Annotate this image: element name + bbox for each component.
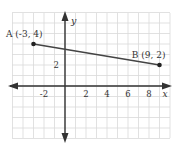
- data-point: [157, 63, 162, 68]
- coordinate-plane: -224682xy A (-3, 4)B (9, 2): [0, 0, 179, 147]
- data-point: [31, 42, 36, 47]
- x-tick-label: -2: [40, 89, 48, 99]
- y-tick-label: 2: [54, 60, 59, 70]
- y-axis-arrow-down-icon: [62, 133, 69, 143]
- x-tick-label: 6: [125, 89, 130, 99]
- point-b-label: B (9, 2): [132, 50, 166, 60]
- x-axis-arrow-left-icon: [8, 83, 18, 90]
- x-axis-label: x: [162, 89, 167, 99]
- x-tick-label: 2: [83, 89, 88, 99]
- y-axis-label: y: [70, 15, 77, 26]
- point-a-label: A (-3, 4): [5, 29, 43, 39]
- x-tick-label: 8: [146, 89, 151, 99]
- x-tick-label: 4: [104, 89, 109, 99]
